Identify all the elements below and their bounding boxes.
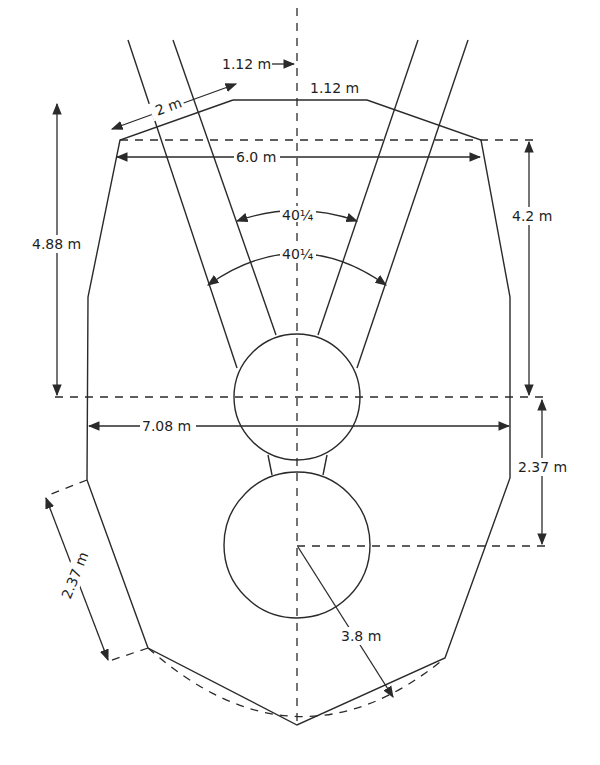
neck-left (268, 455, 272, 475)
neck-right (323, 455, 327, 475)
left-237-label: 2.37 m (58, 550, 91, 602)
width-708-label: 7.08 m (142, 418, 191, 434)
slope-2m-label: 2 m (153, 94, 184, 118)
angle-outer-label: 40¼ (282, 246, 314, 262)
top-offset-label: 1.12 m (222, 56, 271, 72)
hull-outline (87, 100, 510, 725)
radius-label: 3.8 m (341, 628, 381, 644)
radius-arrow (298, 547, 393, 697)
height-42-label: 4.2 m (512, 208, 552, 224)
width-6m-label: 6.0 m (236, 149, 276, 165)
ray-left-inner (173, 40, 276, 335)
height-488-label: 4.88 m (32, 236, 81, 252)
slope-ext-bottom (106, 648, 148, 662)
ray-right-outer (357, 40, 468, 368)
top-flat-label: 1.12 m (310, 80, 359, 96)
slope-ext-top (46, 480, 87, 496)
diagram-canvas: 1.12 m 1.12 m 2 m 6.0 m 4.88 m 4.2 m 40¼… (0, 0, 600, 765)
right-237-label: 2.37 m (518, 459, 567, 475)
angle-inner-label: 40¼ (282, 207, 314, 223)
